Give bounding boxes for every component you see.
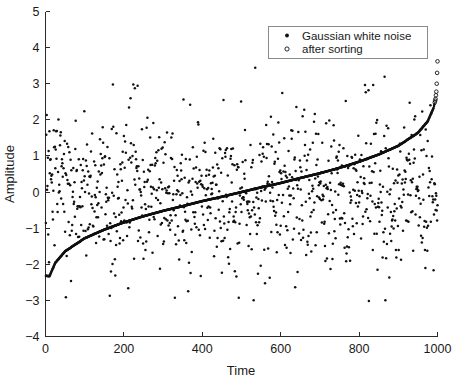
chart-figure: 02004006008001000 −4−3−2−1012345 Time Am… [0, 0, 465, 386]
noise-point [422, 198, 425, 201]
noise-point [188, 261, 191, 264]
noise-point [382, 185, 385, 188]
noise-point [102, 141, 105, 144]
noise-point [250, 248, 253, 251]
noise-point [101, 172, 104, 175]
noise-point [197, 123, 200, 126]
noise-point [387, 157, 390, 160]
noise-point [193, 216, 196, 219]
noise-point [374, 162, 377, 165]
noise-point [120, 168, 123, 171]
noise-point [265, 200, 268, 203]
noise-point [221, 200, 224, 203]
noise-point [435, 192, 438, 195]
noise-point [137, 240, 140, 243]
noise-point [103, 238, 106, 241]
noise-point [386, 206, 389, 209]
noise-point [94, 164, 97, 167]
noise-point [383, 76, 386, 79]
noise-point [61, 162, 64, 165]
noise-point [268, 276, 271, 279]
noise-point [264, 282, 267, 285]
noise-point [74, 216, 77, 219]
noise-point [54, 146, 57, 149]
noise-point [388, 193, 391, 196]
noise-point [341, 217, 344, 220]
noise-point [150, 206, 153, 209]
noise-point [319, 182, 322, 185]
noise-point [123, 167, 126, 170]
noise-point [330, 172, 333, 175]
noise-point [235, 206, 238, 209]
noise-point [61, 158, 64, 161]
sorted-point-open [435, 90, 439, 94]
noise-point [347, 167, 350, 170]
noise-point [231, 200, 234, 203]
noise-point [105, 187, 108, 190]
noise-point [364, 84, 367, 87]
noise-point [203, 142, 206, 145]
noise-point [385, 147, 388, 150]
noise-point [199, 234, 202, 237]
noise-point [419, 203, 422, 206]
noise-point [147, 205, 150, 208]
x-tick-label-0: 0 [42, 342, 49, 356]
noise-point [143, 186, 146, 189]
noise-point [405, 178, 408, 181]
noise-point [126, 189, 128, 192]
noise-point [409, 163, 412, 166]
noise-point [334, 237, 337, 240]
noise-point [111, 192, 114, 195]
noise-point [294, 286, 297, 289]
noise-point [156, 235, 159, 238]
noise-point [377, 197, 380, 200]
noise-point [391, 218, 394, 221]
noise-point [299, 188, 302, 191]
noise-point [146, 116, 149, 119]
noise-point [355, 170, 358, 173]
noise-point [190, 228, 193, 231]
noise-point [154, 162, 157, 165]
noise-point [132, 83, 135, 86]
noise-point [253, 206, 256, 209]
noise-point [292, 187, 295, 190]
noise-point [325, 183, 328, 186]
noise-point [265, 157, 268, 160]
noise-point [192, 146, 195, 149]
noise-point [144, 203, 147, 206]
noise-point [196, 156, 199, 159]
noise-point [62, 176, 65, 179]
noise-point [387, 127, 390, 130]
noise-point [233, 164, 236, 167]
noise-point [329, 268, 332, 271]
noise-point [166, 131, 169, 134]
y-tick-label--2: −2 [25, 258, 39, 272]
noise-point [249, 233, 252, 236]
noise-point [96, 187, 99, 190]
noise-point [170, 136, 173, 139]
noise-point [112, 126, 115, 129]
noise-point [186, 196, 189, 199]
noise-point [322, 195, 325, 198]
noise-point [426, 249, 429, 252]
noise-point [372, 249, 375, 252]
noise-point [157, 149, 160, 152]
noise-point [296, 216, 299, 219]
noise-point [328, 200, 331, 203]
noise-point [154, 164, 157, 167]
noise-point [205, 194, 208, 197]
noise-point [70, 280, 73, 283]
noise-point [339, 181, 342, 184]
noise-point [352, 225, 355, 228]
noise-point [85, 159, 88, 162]
noise-point [127, 158, 130, 161]
noise-point [330, 189, 333, 192]
noise-point [209, 212, 212, 215]
noise-point [433, 213, 436, 216]
noise-point [355, 202, 358, 205]
noise-point [252, 201, 255, 204]
noise-point [60, 165, 63, 168]
noise-point [421, 237, 424, 240]
noise-point [398, 173, 401, 176]
noise-point [397, 249, 400, 252]
